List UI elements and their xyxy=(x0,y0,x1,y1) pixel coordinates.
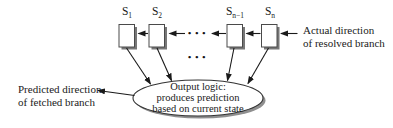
arrow-s2-to-logic xyxy=(157,48,172,81)
output-logic-line3: based on current state xyxy=(128,104,268,115)
register-box-s2 xyxy=(149,25,165,48)
ellipsis-dots-middle: ••• xyxy=(188,51,209,63)
output-logic-text: Output logic: produces prediction based … xyxy=(128,82,268,114)
predicted-direction-label: Predicted direction of fetched branch xyxy=(18,83,101,109)
arrow-s1-to-logic xyxy=(127,48,151,84)
ellipsis-dots-top: ••• xyxy=(188,27,209,39)
arrow-sn1-to-logic xyxy=(228,48,235,81)
register-label-s1: S1 xyxy=(111,4,143,19)
predicted-direction-line1: Predicted direction xyxy=(18,83,101,96)
register-box-s1 xyxy=(119,25,135,48)
register-box-sn1 xyxy=(227,25,243,48)
register-label-s2: S2 xyxy=(141,4,173,19)
diagram-canvas: S1 S2 Sn−1 Sn ••• ••• Output logic: prod… xyxy=(0,0,393,128)
output-logic-line2: produces prediction xyxy=(128,93,268,104)
register-label-sn1: Sn−1 xyxy=(219,4,251,19)
register-label-sn: Sn xyxy=(254,4,286,19)
register-box-sn xyxy=(262,25,278,48)
predicted-direction-line2: of fetched branch xyxy=(18,96,101,109)
arrow-sn-to-logic xyxy=(248,48,269,84)
actual-direction-label: Actual direction of resolved branch xyxy=(303,24,385,50)
actual-direction-line1: Actual direction xyxy=(303,24,385,37)
actual-direction-line2: of resolved branch xyxy=(303,37,385,50)
